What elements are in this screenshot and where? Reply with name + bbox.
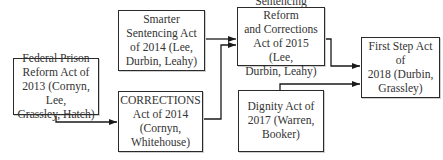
node-sentencing-reform-corrections-act-2015: Sentencing Reform and Corrections Act of… bbox=[237, 7, 325, 66]
node-label: First Step Act of 2018 (Durbin, Grassley… bbox=[364, 40, 437, 96]
node-label: CORRECTIONS Act of 2014 (Cornyn, Whiteho… bbox=[120, 94, 201, 150]
node-federal-prison-reform-act-2013: Federal Prison Reform Act of 2013 (Corny… bbox=[13, 58, 99, 115]
edge-n3-n4 bbox=[202, 45, 236, 119]
edge-n4-n6 bbox=[324, 39, 360, 66]
node-smarter-sentencing-act-2014: Smarter Sentencing Act of 2014 (Lee, Dur… bbox=[118, 10, 205, 71]
node-label: Smarter Sentencing Act of 2014 (Lee, Dur… bbox=[126, 13, 197, 69]
node-label: Dignity Act of 2017 (Warren, Booker) bbox=[248, 100, 315, 142]
node-label: Federal Prison Reform Act of 2013 (Corny… bbox=[16, 52, 96, 122]
node-dignity-act-2017: Dignity Act of 2017 (Warren, Booker) bbox=[238, 90, 324, 152]
node-corrections-act-2014: CORRECTIONS Act of 2014 (Cornyn, Whiteho… bbox=[118, 91, 203, 152]
node-label: Sentencing Reform and Corrections Act of… bbox=[240, 0, 322, 79]
node-first-step-act-2018: First Step Act of 2018 (Durbin, Grassley… bbox=[361, 37, 440, 98]
